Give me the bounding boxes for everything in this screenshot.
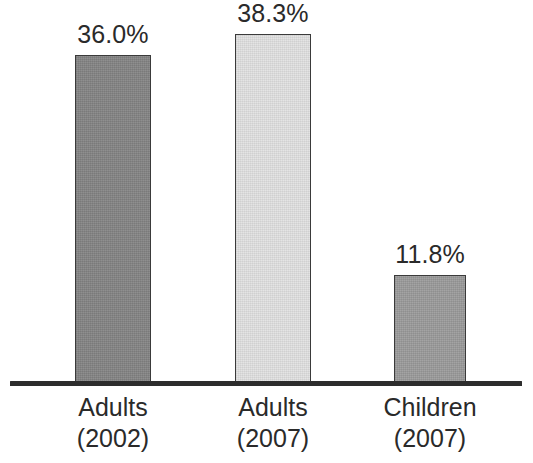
bar-children-2007[interactable] — [394, 275, 466, 383]
bar-adults-2002[interactable] — [75, 55, 151, 383]
bar-chart: 36.0% 38.3% 11.8% Adults (2002) Adults (… — [0, 0, 533, 463]
bar-value-label-children-2007: 11.8% — [395, 242, 465, 267]
plot-area: 36.0% 38.3% 11.8% — [0, 0, 533, 383]
x-axis-label-adults-2002-line1: Adults — [77, 392, 149, 423]
x-axis-label-children-2007-line2: (2007) — [383, 423, 476, 454]
x-axis-label-adults-2007-line2: (2007) — [237, 423, 309, 454]
x-axis-label-adults-2007-line1: Adults — [237, 392, 309, 423]
x-axis-labels: Adults (2002) Adults (2007) Children (20… — [0, 392, 533, 463]
bar-group-adults-2002[interactable]: 36.0% — [75, 55, 151, 383]
x-axis-label-adults-2007: Adults (2007) — [237, 392, 309, 453]
x-axis-label-children-2007-line1: Children — [383, 392, 476, 423]
x-axis-baseline — [10, 381, 522, 386]
x-axis-label-children-2007: Children (2007) — [383, 392, 476, 453]
bar-value-label-adults-2002: 36.0% — [77, 22, 148, 47]
x-axis-label-adults-2002-line2: (2002) — [77, 423, 149, 454]
bar-value-label-adults-2007: 38.3% — [237, 1, 308, 26]
x-axis-label-adults-2002: Adults (2002) — [77, 392, 149, 453]
bar-group-adults-2007[interactable]: 38.3% — [235, 34, 311, 383]
bar-group-children-2007[interactable]: 11.8% — [394, 275, 466, 383]
bar-adults-2007[interactable] — [235, 34, 311, 383]
